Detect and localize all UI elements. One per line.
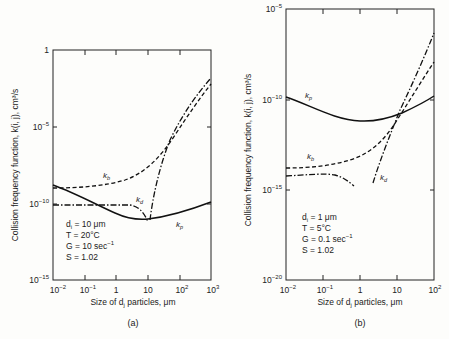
curve-labels-b: kp kb kd	[305, 91, 388, 183]
svg-text:di = 1 μm: di = 1 μm	[302, 212, 337, 223]
svg-text:G = 0.1 sec−1: G = 0.1 sec−1	[302, 233, 353, 244]
svg-text:G = 10 sec−1: G = 10 sec−1	[66, 240, 115, 251]
svg-text:10: 10	[392, 285, 402, 295]
y-axis-title-a: Collision frequency function, k(i, j), c…	[10, 89, 20, 242]
curve-labels-a: kb kd kp	[103, 171, 183, 230]
svg-text:1: 1	[44, 45, 49, 55]
svg-text:T = 20°C: T = 20°C	[66, 230, 100, 240]
y-tick-labels-b: 10−5 10−10 10−15 10−20	[262, 3, 282, 285]
svg-text:di = 10 μm: di = 10 μm	[66, 219, 106, 230]
svg-text:102: 102	[176, 284, 189, 295]
svg-text:kb: kb	[307, 152, 314, 162]
curve-kd-b	[286, 174, 354, 186]
svg-text:kp: kp	[176, 220, 183, 230]
y-axis-title-b: Collision frequency function, k(i, j), c…	[243, 74, 253, 227]
svg-text:1: 1	[114, 285, 119, 295]
figure: 1 10−5 10−10 10−15 10−2 10−1 1 10 102 10…	[0, 0, 449, 339]
curve-kd-b-rise	[373, 33, 434, 183]
panel-label-b: (b)	[355, 318, 366, 328]
svg-text:10−15: 10−15	[29, 274, 49, 285]
curve-kd-a-rise	[150, 78, 211, 220]
svg-text:kb: kb	[103, 171, 110, 181]
conditions-annotation-a: di = 10 μm T = 20°C G = 10 sec−1 S = 1.0…	[66, 219, 115, 262]
svg-text:102: 102	[429, 284, 442, 295]
svg-text:10−20: 10−20	[262, 274, 282, 285]
svg-text:10−10: 10−10	[262, 94, 282, 105]
y-tick-labels-a: 1 10−5 10−10 10−15	[29, 45, 49, 285]
svg-text:1: 1	[358, 285, 363, 295]
curve-kb-a	[53, 84, 211, 188]
svg-text:S = 1.02: S = 1.02	[66, 252, 98, 262]
x-axis-title-b: Size of dj particles, μm	[317, 297, 402, 308]
conditions-annotation-b: di = 1 μm T = 5°C G = 0.1 sec−1 S = 1.02	[302, 212, 353, 255]
svg-text:10−1: 10−1	[317, 284, 334, 295]
svg-text:T = 5°C: T = 5°C	[302, 223, 331, 233]
x-tick-labels-a: 10−2 10−1 1 10 102 103	[50, 284, 220, 295]
chart-panel-a: 1 10−5 10−10 10−15 10−2 10−1 1 10 102 10…	[10, 45, 220, 328]
svg-text:kd: kd	[380, 173, 388, 183]
svg-text:10: 10	[143, 285, 153, 295]
curve-kp-a	[53, 185, 211, 219]
svg-text:kp: kp	[305, 91, 312, 101]
svg-text:kd: kd	[136, 195, 144, 205]
svg-text:10−10: 10−10	[29, 198, 49, 209]
svg-text:S = 1.02: S = 1.02	[302, 245, 334, 255]
svg-text:10−5: 10−5	[33, 121, 50, 132]
svg-text:10−1: 10−1	[80, 284, 97, 295]
svg-text:103: 103	[207, 284, 220, 295]
svg-text:10−2: 10−2	[50, 284, 67, 295]
svg-text:10−2: 10−2	[280, 284, 297, 295]
chart-panel-b: 10−5 10−10 10−15 10−20 10−2 10−1 1 10 10…	[243, 3, 442, 328]
x-axis-title-a: Size of dj particles, μm	[90, 297, 175, 308]
svg-text:10−15: 10−15	[262, 184, 282, 195]
panel-label-a: (a)	[128, 318, 139, 328]
svg-text:10−5: 10−5	[266, 3, 283, 14]
x-tick-labels-b: 10−2 10−1 1 10 102	[280, 284, 442, 295]
